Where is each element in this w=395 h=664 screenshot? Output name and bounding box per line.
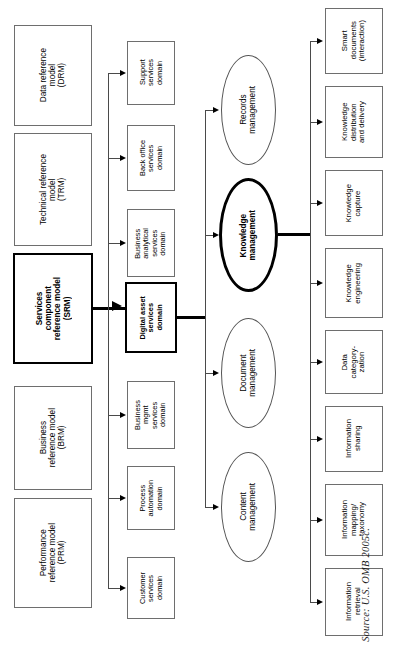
node-support[interactable]: Support services domain — [127, 41, 175, 105]
node-label-business-analytical: Business analytical services domain — [134, 228, 167, 259]
node-label-document-management: Document management — [239, 349, 257, 397]
connector-line — [177, 316, 205, 319]
node-label-business-mgmt: Business mgmt services domain — [134, 400, 167, 430]
node-back-office[interactable]: Back office services domain — [127, 125, 175, 191]
connector-arrowhead — [120, 585, 126, 591]
node-label-data-categoryzation: Data category- zation — [341, 346, 367, 379]
connector-arrowhead — [317, 599, 323, 605]
node-business-mgmt[interactable]: Business mgmt services domain — [127, 381, 175, 449]
node-process-automation[interactable]: Process automation domain — [127, 466, 175, 530]
node-content-management[interactable]: Content management — [221, 452, 276, 562]
node-information-sharing[interactable]: Information sharing — [325, 406, 383, 472]
connector-arrowhead — [120, 70, 126, 76]
connector-line — [278, 233, 310, 236]
node-drm[interactable]: Data reference model (DRM) — [14, 25, 92, 126]
connector-arrowhead — [317, 38, 323, 44]
node-label-knowledge-engineering: Knowledge engineering — [345, 263, 362, 304]
node-label-prm: Performance reference model (PRM) — [39, 523, 67, 582]
diagram-canvas: Data reference model (DRM)Technical refe… — [0, 0, 395, 664]
connector-arrowhead — [120, 495, 126, 501]
node-trm[interactable]: Technical reference model (TRM) — [14, 133, 92, 246]
connector-arrowhead — [213, 370, 219, 376]
node-label-records-management: Records management — [239, 86, 257, 134]
node-label-drm: Data reference model (DRM) — [39, 48, 67, 102]
connector-line — [108, 73, 109, 588]
node-label-content-management: Content management — [239, 483, 257, 531]
node-label-information-sharing: Information sharing — [345, 419, 362, 458]
connector-arrowhead — [317, 280, 323, 286]
connector-arrowhead — [120, 412, 126, 418]
node-smart-documents[interactable]: Smart documents (interaction) — [325, 8, 383, 74]
connector-line — [310, 41, 311, 602]
node-label-support: Support services domain — [139, 59, 164, 86]
node-records-management[interactable]: Records management — [221, 55, 276, 165]
connector-arrowhead — [317, 200, 323, 206]
node-label-process-automation: Process automation domain — [139, 480, 164, 517]
node-label-knowledge-capture: Knowledge capture — [345, 184, 362, 223]
node-label-trm: Technical reference model (TRM) — [39, 154, 67, 225]
node-knowledge-capture[interactable]: Knowledge capture — [325, 170, 383, 236]
node-label-brm: Business reference model (BRM) — [39, 408, 67, 467]
node-information-retrieval[interactable]: Information retrieval — [325, 568, 383, 636]
node-label-customer-services: Customer services domain — [139, 572, 164, 604]
connector-arrowhead — [112, 301, 122, 311]
node-customer-services[interactable]: Customer services domain — [127, 557, 175, 619]
node-srm[interactable]: Services component reference model (SRM) — [13, 253, 93, 364]
node-label-smart-documents: Smart documents (interaction) — [341, 20, 367, 61]
source-note: Source: U.S. OMB 2005c. — [360, 528, 371, 642]
node-label-digital-asset: Digital asset services domain — [139, 296, 164, 340]
node-digital-asset[interactable]: Digital asset services domain — [125, 282, 177, 353]
connector-arrowhead — [317, 517, 323, 523]
node-information-mapping[interactable]: Information mapping/ taxonomy — [325, 484, 383, 556]
node-label-knowledge-management: Knowledge management — [239, 210, 257, 261]
node-knowledge-distribution[interactable]: Knowledge distribution and delivery — [325, 86, 383, 158]
node-data-categoryzation[interactable]: Data category- zation — [325, 330, 383, 394]
node-business-analytical[interactable]: Business analytical services domain — [127, 209, 175, 277]
connector-arrowhead — [317, 359, 323, 365]
node-knowledge-engineering[interactable]: Knowledge engineering — [325, 248, 383, 318]
connector-arrowhead — [213, 107, 219, 113]
node-label-back-office: Back office services domain — [139, 140, 164, 176]
connector-arrowhead — [120, 155, 126, 161]
node-brm[interactable]: Business reference model (BRM) — [14, 386, 92, 490]
connector-arrowhead — [317, 436, 323, 442]
connector-arrowhead — [317, 119, 323, 125]
node-knowledge-management[interactable]: Knowledge management — [219, 178, 278, 292]
node-document-management[interactable]: Document management — [221, 318, 276, 428]
node-prm[interactable]: Performance reference model (PRM) — [14, 498, 92, 608]
node-label-srm: Services component reference model (SRM) — [35, 277, 72, 340]
connector-line — [205, 110, 206, 507]
node-label-knowledge-distribution: Knowledge distribution and delivery — [341, 101, 367, 143]
connector-arrowhead — [120, 240, 126, 246]
connector-arrowhead — [213, 232, 219, 238]
connector-arrowhead — [213, 504, 219, 510]
